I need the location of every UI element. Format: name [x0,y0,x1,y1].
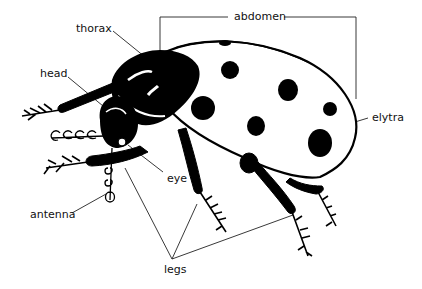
foot-2 [44,156,88,174]
beetle-diagram [0,0,422,289]
foot-5 [318,192,336,226]
label-elytra: elytra [372,112,404,123]
label-abdomen: abdomen [234,11,286,22]
foot-3 [200,192,226,232]
legs-leader-2 [172,204,197,259]
antenna-left [51,131,104,141]
antenna-leader [72,194,106,213]
label-legs: legs [164,264,187,275]
legs-leader-1 [125,168,172,259]
foot-1 [22,104,60,120]
label-antenna: antenna [30,209,75,220]
label-eye: eye [167,173,187,184]
legs-leader-3 [172,215,293,259]
eye [118,138,126,146]
label-thorax: thorax [76,23,112,34]
foot-4 [292,212,312,256]
label-head: head [40,68,67,79]
